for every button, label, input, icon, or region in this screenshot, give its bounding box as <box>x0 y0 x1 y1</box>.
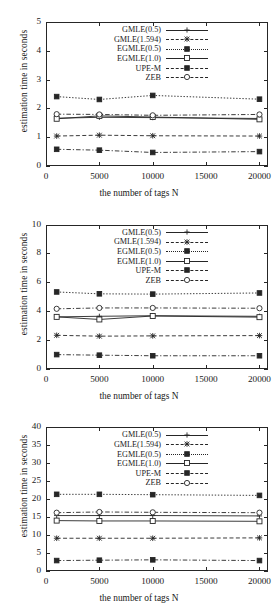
legend-key-open-circle-icon <box>166 276 208 286</box>
legend-label: GMLE(1.594) <box>114 237 166 246</box>
data-series <box>54 289 261 296</box>
data-series <box>54 513 262 519</box>
legend-key-open-circle-icon <box>166 478 208 488</box>
chart-panel-1: 01234505000100001500020000estimation tim… <box>0 0 278 203</box>
data-series <box>54 535 262 541</box>
legend-label: EGMLE(0.5) <box>117 247 166 256</box>
legend-label: GMLE(1.594) <box>114 35 166 44</box>
legend: GMLE(0.5)GMLE(1.594)EGMLE(0.5)EGMLE(1.0)… <box>58 430 208 488</box>
legend-label: ZEB <box>146 276 166 285</box>
data-series <box>54 147 261 155</box>
legend-label: ZEB <box>146 478 166 487</box>
data-series <box>54 352 261 358</box>
data-series <box>54 313 262 321</box>
legend-label: GMLE(0.5) <box>122 25 166 34</box>
chart-panel-2: 024681005000100001500020000estimation ti… <box>0 203 278 406</box>
data-series <box>54 492 261 498</box>
three-panel-line-chart-figure: 01234505000100001500020000estimation tim… <box>0 0 278 608</box>
legend: GMLE(0.5)GMLE(1.594)EGMLE(0.5)EGMLE(1.0)… <box>58 25 208 83</box>
legend-label: GMLE(0.5) <box>122 430 166 439</box>
legend: GMLE(0.5)GMLE(1.594)EGMLE(0.5)EGMLE(1.0)… <box>58 228 208 286</box>
legend-label: UPE-M <box>136 469 166 478</box>
data-series <box>54 93 261 102</box>
legend-item: ZEB <box>58 478 208 488</box>
legend-label: UPE-M <box>136 64 166 73</box>
legend-label: UPE-M <box>136 266 166 275</box>
legend-label: EGMLE(1.0) <box>117 54 166 63</box>
data-series <box>54 510 262 516</box>
legend-label: EGMLE(1.0) <box>117 459 166 468</box>
data-series <box>54 518 262 524</box>
chart-panel-3: 051015202530354005000100001500020000esti… <box>0 405 278 608</box>
data-series <box>54 305 262 311</box>
legend-label: EGMLE(1.0) <box>117 257 166 266</box>
legend-item: ZEB <box>58 276 208 286</box>
legend-label: GMLE(0.5) <box>122 228 166 237</box>
data-series <box>54 332 262 338</box>
legend-label: EGMLE(0.5) <box>117 450 166 459</box>
legend-key-open-circle-icon <box>166 73 208 83</box>
legend-label: EGMLE(0.5) <box>117 44 166 53</box>
legend-item: ZEB <box>58 73 208 83</box>
data-series <box>54 132 262 138</box>
legend-label: GMLE(1.594) <box>114 440 166 449</box>
legend-label: ZEB <box>146 73 166 82</box>
data-series <box>54 558 261 563</box>
